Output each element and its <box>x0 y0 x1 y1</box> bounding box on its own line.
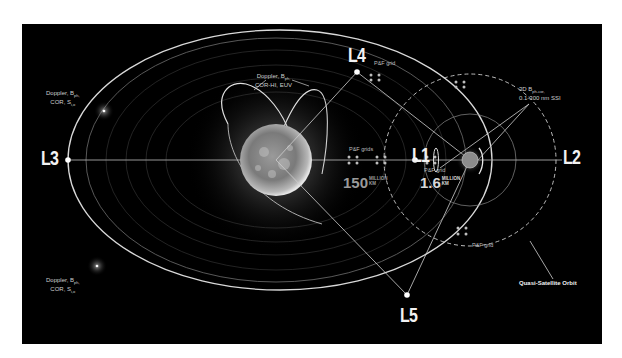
l4-marker <box>354 69 360 75</box>
annotation-sub: ph, <box>74 280 80 285</box>
polar-orbit-annotation: Doppler, Bph, COR-HI, EUV <box>255 73 292 89</box>
l2-label: L2 <box>563 146 580 169</box>
distance-unit-line: KM <box>369 181 376 186</box>
qso-callout <box>530 241 553 279</box>
upper-left-annotation: Doppler, Bph, COR, Si,o <box>46 90 80 108</box>
instrument-callout-2 <box>478 104 529 160</box>
l3-label: L3 <box>41 147 58 170</box>
lower-left-annotation: Doppler, Bph, COR, Si,o <box>46 277 80 295</box>
annotation-text: COR-HI, EUV <box>255 82 292 88</box>
annotation-sub: i,o <box>71 289 75 294</box>
l4-label: L4 <box>348 44 365 67</box>
pf-grid-lower-label: P&F grid <box>472 242 493 248</box>
quasi-satellite-orbit-label: Quasi-Satellite Orbit <box>519 280 577 286</box>
pf-grid-l1-label: P&F grid <box>424 167 445 173</box>
sun-earth-distance: 150MILLIONKM <box>343 174 388 191</box>
pf-grids-label: P&F grids <box>349 146 373 152</box>
annotation-sub: ph, <box>74 93 80 98</box>
diagram-frame: L3 L4 L5 L1 L2 Doppler, Bph, COR, Si,o D… <box>22 24 602 344</box>
annotation-sub: i,o <box>71 102 75 107</box>
pf-grid-l4-label: P&F grid <box>374 60 395 66</box>
earth-l1-distance: 1.6MILLIONKM <box>420 174 460 191</box>
distance-unit: MILLIONKM <box>369 176 388 186</box>
orbit-scene <box>22 24 602 344</box>
annotation-text: 3D B <box>519 86 532 92</box>
distance-unit: MILLIONKM <box>442 176 461 186</box>
annotation-text: Doppler, B <box>257 73 285 79</box>
l5-marker <box>404 292 410 298</box>
annotation-text: Doppler, B <box>46 277 74 283</box>
annotation-text: COR, S <box>50 99 71 105</box>
l1-label: L1 <box>412 144 429 167</box>
annotation-sub: ph, <box>285 76 291 81</box>
distance-unit-line: KM <box>442 181 449 186</box>
earth <box>462 152 478 168</box>
earth-instrument-annotation: 3D Bph-cor, 0.1-300 nm SSI <box>519 86 561 102</box>
annotation-sub: ph-cor, <box>532 89 544 94</box>
distance-value: 1.6 <box>420 174 441 191</box>
l5-label: L5 <box>400 304 417 327</box>
distance-value: 150 <box>343 174 368 191</box>
annotation-text: 0.1-300 nm SSI <box>519 95 561 101</box>
l3-marker <box>65 157 71 163</box>
annotation-text: Doppler, B <box>46 90 74 96</box>
annotation-text: COR, S <box>50 286 71 292</box>
